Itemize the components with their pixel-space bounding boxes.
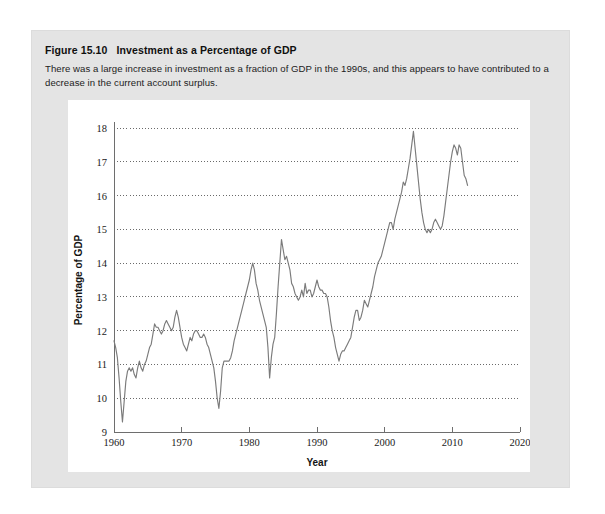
- x-tick-label: 2020: [510, 437, 531, 448]
- y-tick-label: 11: [97, 359, 107, 370]
- x-tick-label: 1980: [239, 437, 260, 448]
- figure-header: Figure 15.10 Investment as a Percentage …: [45, 43, 553, 89]
- y-axis-title: Percentage of GDP: [73, 234, 84, 325]
- y-tick-label: 13: [97, 292, 108, 303]
- figure-panel: Figure 15.10 Investment as a Percentage …: [31, 30, 570, 488]
- figure-title-line: Figure 15.10 Investment as a Percentage …: [45, 43, 553, 57]
- x-tick-label: 2000: [374, 437, 395, 448]
- y-tick-label: 18: [97, 123, 108, 134]
- y-tick-label: 16: [97, 191, 108, 202]
- chart-card: 9101112131415161718 19601970198019902000…: [68, 100, 530, 472]
- figure-title: Investment as a Percentage of GDP: [117, 44, 297, 56]
- x-tick-label: 1990: [307, 437, 328, 448]
- figure-number: Figure 15.10: [45, 44, 107, 56]
- figure-screenshot: Figure 15.10 Investment as a Percentage …: [0, 0, 605, 514]
- y-tick-label: 15: [97, 224, 108, 235]
- investment-series-line: [114, 131, 468, 421]
- grid-lines: [114, 128, 520, 398]
- x-tick-label: 1970: [171, 437, 192, 448]
- y-tick-label: 10: [97, 393, 108, 404]
- x-tick-label: 1960: [104, 437, 125, 448]
- y-axis-ticks: 9101112131415161718: [97, 123, 108, 438]
- figure-caption: There was a large increase in investment…: [45, 62, 553, 89]
- line-chart: 9101112131415161718 19601970198019902000…: [68, 100, 530, 472]
- y-tick-label: 12: [97, 326, 108, 337]
- x-axis-ticks: 1960197019801990200020102020: [104, 427, 531, 448]
- y-tick-label: 17: [97, 157, 108, 168]
- x-axis-title: Year: [306, 457, 327, 468]
- y-tick-label: 14: [97, 258, 108, 269]
- x-tick-label: 2010: [442, 437, 463, 448]
